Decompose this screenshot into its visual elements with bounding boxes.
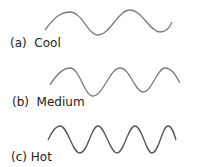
medium-wave	[50, 68, 180, 96]
label-medium: (b) Medium	[12, 95, 85, 109]
wave-diagram	[0, 0, 220, 167]
label-cool: (a) Cool	[10, 36, 61, 50]
cool-wave	[45, 10, 172, 35]
hot-wave	[48, 126, 176, 153]
label-hot: (c) Hot	[11, 150, 52, 164]
